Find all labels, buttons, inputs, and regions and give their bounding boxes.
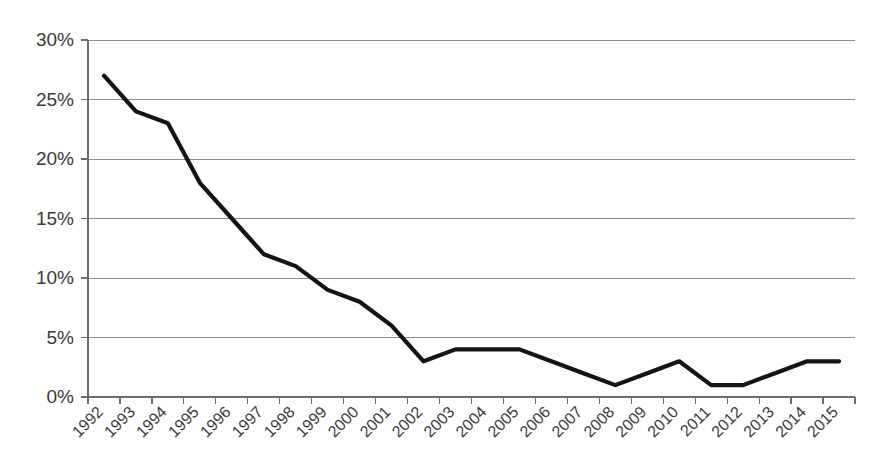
x-axis-tick-label: 2009 [612, 403, 649, 440]
x-axis-tick-label: 1995 [165, 403, 202, 440]
x-axis-tick-label: 1999 [293, 403, 330, 440]
x-axis-tick-label: 2005 [484, 403, 521, 440]
gridlines-group [81, 40, 855, 397]
x-axis-labels-group: 1992199319941995199619971998199920002001… [69, 403, 841, 440]
x-axis-tick-label: 2008 [580, 403, 617, 440]
x-axis-tick-label: 2003 [420, 403, 457, 440]
x-axis-tick-label: 2006 [516, 403, 553, 440]
x-axis-tick-label: 2002 [388, 403, 425, 440]
x-axis-ticks-group [88, 397, 855, 404]
x-axis-tick-label: 1994 [133, 403, 170, 440]
x-axis-tick-label: 2012 [708, 403, 745, 440]
y-axis-tick-label: 0% [47, 386, 75, 407]
x-axis-tick-label: 1993 [101, 403, 138, 440]
y-axis-tick-label: 5% [47, 327, 75, 348]
x-axis-tick-label: 2001 [357, 403, 394, 440]
x-axis-tick-label: 2007 [548, 403, 585, 440]
y-axis-labels-group: 0%5%10%15%20%25%30% [36, 29, 74, 407]
x-axis-tick-label: 2015 [804, 403, 841, 440]
line-chart: 0%5%10%15%20%25%30% 19921993199419951996… [0, 0, 888, 475]
x-axis-tick-label: 2013 [740, 403, 777, 440]
x-axis-tick-label: 2014 [772, 403, 809, 440]
x-axis-tick-label: 1997 [229, 403, 266, 440]
y-axis-tick-label: 30% [36, 29, 74, 50]
y-axis-tick-label: 10% [36, 267, 74, 288]
x-axis-tick-label: 1998 [261, 403, 298, 440]
x-axis-tick-label: 2000 [325, 403, 362, 440]
x-axis-tick-label: 1996 [197, 403, 234, 440]
x-axis-tick-label: 2011 [677, 403, 713, 439]
y-axis-tick-label: 25% [36, 89, 74, 110]
x-axis-tick-label: 2010 [644, 403, 681, 440]
data-series-line [104, 76, 839, 385]
x-axis-tick-label: 1992 [69, 403, 106, 440]
x-axis-tick-label: 2004 [452, 403, 489, 440]
y-axis-tick-label: 15% [36, 208, 74, 229]
chart-container: 0%5%10%15%20%25%30% 19921993199419951996… [0, 0, 888, 475]
y-axis-tick-label: 20% [36, 148, 74, 169]
